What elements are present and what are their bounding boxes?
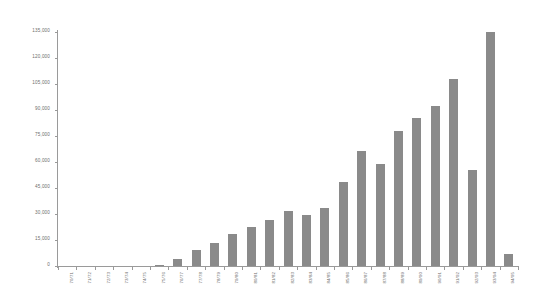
y-axis-tick-label: 45,000 <box>35 184 50 189</box>
x-axis-tick-mark <box>168 267 169 270</box>
x-axis-tick-mark <box>316 267 317 270</box>
x-axis-tick-mark <box>408 267 409 270</box>
bar <box>247 227 256 266</box>
y-axis-tick-label: 75,000 <box>35 132 50 137</box>
y-axis-tick-label: 60,000 <box>35 158 50 163</box>
bar <box>504 254 513 266</box>
x-axis-label: 73/74 <box>124 272 129 284</box>
x-axis-tick-mark <box>481 267 482 270</box>
x-axis-tick-mark <box>279 267 280 270</box>
x-axis-label: 70/71 <box>69 272 74 284</box>
x-axis-label: 86/87 <box>363 272 368 284</box>
bar <box>412 118 421 266</box>
bar <box>357 151 366 266</box>
x-axis-tick-mark <box>113 267 114 270</box>
x-axis-label: 82/83 <box>290 272 295 284</box>
x-axis-tick-mark <box>132 267 133 270</box>
bar <box>173 259 182 266</box>
x-axis-label: 81/82 <box>271 272 276 284</box>
x-axis-label: 90/91 <box>437 272 442 284</box>
bar <box>192 250 201 266</box>
bar-chart: 015,00030,00045,00060,00075,00090,000105… <box>0 0 540 298</box>
x-axis-label: 71/72 <box>87 272 92 284</box>
x-axis-tick-mark <box>426 267 427 270</box>
bar <box>210 243 219 266</box>
y-axis-tick-label: 15,000 <box>35 236 50 241</box>
x-axis-tick-mark <box>297 267 298 270</box>
x-axis-label: 75/76 <box>161 272 166 284</box>
bar <box>431 106 440 266</box>
x-axis-label: 72/73 <box>106 272 111 284</box>
bar <box>302 215 311 266</box>
y-axis-tick-label: 30,000 <box>35 210 50 215</box>
x-axis-tick-mark <box>352 267 353 270</box>
x-axis-tick-mark <box>444 267 445 270</box>
bar <box>320 208 329 266</box>
x-axis-label: 93/94 <box>492 272 497 284</box>
x-axis-tick-mark <box>150 267 151 270</box>
x-axis-label: 78/79 <box>216 272 221 284</box>
bar <box>394 131 403 266</box>
x-axis-tick-mark <box>187 267 188 270</box>
x-axis-tick-mark <box>76 267 77 270</box>
bar <box>284 211 293 266</box>
x-axis-tick-mark <box>95 267 96 270</box>
y-axis-tick-label: 120,000 <box>32 54 50 59</box>
x-axis-label: 76/77 <box>179 272 184 284</box>
x-axis-tick-mark <box>389 267 390 270</box>
x-axis-tick-mark <box>518 267 519 270</box>
x-axis-label: 84/85 <box>326 272 331 284</box>
x-axis-label: 92/93 <box>474 272 479 284</box>
x-axis-label: 83/84 <box>308 272 313 284</box>
x-axis-label: 77/78 <box>198 272 203 284</box>
x-axis-tick-mark <box>334 267 335 270</box>
bar <box>339 182 348 266</box>
x-axis-label: 87/88 <box>382 272 387 284</box>
x-axis-label: 74/75 <box>142 272 147 284</box>
x-axis-label: 79/80 <box>234 272 239 284</box>
y-axis-tick-label: 135,000 <box>32 28 50 33</box>
x-axis-tick-mark <box>260 267 261 270</box>
bar <box>155 265 164 266</box>
x-axis-tick-mark <box>58 267 59 270</box>
y-axis-tick-label: 0 <box>47 262 50 267</box>
x-axis-line <box>57 266 519 267</box>
y-axis-tick-label: 105,000 <box>32 80 50 85</box>
x-axis-label: 85/86 <box>345 272 350 284</box>
x-axis-tick-mark <box>224 267 225 270</box>
x-axis-label: 91/92 <box>455 272 460 284</box>
x-axis-tick-mark <box>463 267 464 270</box>
x-axis-tick-mark <box>205 267 206 270</box>
bar <box>486 32 495 266</box>
x-axis-tick-mark <box>242 267 243 270</box>
bar <box>376 164 385 266</box>
x-axis-label: 88/89 <box>400 272 405 284</box>
plot-area <box>58 32 518 266</box>
bar <box>228 234 237 266</box>
bar <box>449 79 458 266</box>
y-axis-tick-label: 90,000 <box>35 106 50 111</box>
x-axis-tick-mark <box>500 267 501 270</box>
x-axis-label: 80/81 <box>253 272 258 284</box>
bar <box>468 170 477 266</box>
x-axis-label: 89/90 <box>418 272 423 284</box>
x-axis-tick-mark <box>371 267 372 270</box>
bar <box>265 220 274 266</box>
x-axis-label: 94/95 <box>510 272 515 284</box>
